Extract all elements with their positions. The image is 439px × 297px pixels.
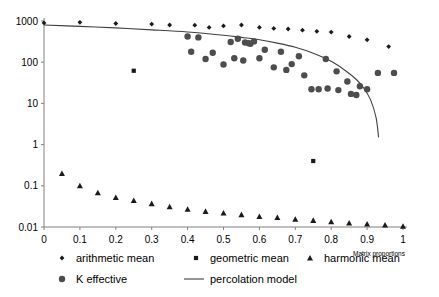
y-tick-label: 0.01 — [19, 222, 39, 233]
marker-diamond — [192, 23, 197, 28]
x-tick-label: 0.6 — [252, 234, 266, 245]
marker-circle — [235, 36, 241, 42]
data-point — [314, 29, 319, 34]
data-point — [195, 34, 201, 40]
data-point — [324, 85, 330, 91]
x-tick-label: 0.7 — [288, 234, 302, 245]
data-point — [220, 61, 226, 67]
legend-marker-swatch — [59, 276, 65, 282]
data-point — [207, 25, 212, 30]
data-point — [149, 201, 155, 207]
marker-circle — [391, 70, 397, 76]
marker-diamond — [257, 25, 262, 30]
marker-diamond — [167, 23, 172, 28]
data-point — [239, 23, 244, 28]
y-tick-label: 100 — [21, 57, 38, 68]
marker-triangle — [167, 204, 173, 210]
data-point — [257, 25, 262, 30]
marker-circle — [210, 50, 216, 56]
marker-diamond — [78, 20, 83, 25]
marker-triangle — [310, 217, 316, 223]
marker-diamond — [286, 27, 291, 32]
marker-triangle — [113, 195, 119, 201]
marker-triangle — [256, 213, 262, 219]
data-point — [300, 28, 305, 33]
data-point — [391, 70, 397, 76]
data-point — [202, 56, 208, 62]
legend-label-text: geometric mean — [210, 252, 289, 264]
marker-triangle — [59, 170, 65, 176]
legend-label-text: harmonic mean — [324, 252, 400, 264]
marker-circle — [256, 55, 262, 61]
x-tick-label: 0.1 — [73, 234, 87, 245]
legend-marker-swatch — [307, 255, 313, 261]
marker-triangle — [95, 190, 101, 196]
series-harmonic-mean — [59, 170, 406, 228]
y-axis-ticks: 10001001010.10.01 — [16, 16, 44, 233]
data-point — [256, 55, 262, 61]
marker-diamond — [60, 256, 65, 261]
marker-triangle — [238, 212, 244, 218]
marker-diamond — [329, 30, 334, 35]
data-point — [364, 221, 370, 227]
x-tick-label: 0.2 — [109, 234, 123, 245]
legend-label-text: K effective — [76, 273, 127, 285]
data-point — [184, 33, 190, 39]
marker-square — [132, 69, 136, 73]
data-point — [278, 48, 284, 54]
marker-circle — [364, 86, 370, 92]
marker-diamond — [221, 24, 226, 29]
series-k-effective — [184, 33, 397, 98]
x-tick-label: 0.8 — [324, 234, 338, 245]
data-point — [274, 215, 280, 221]
marker-triangle — [77, 183, 83, 189]
data-point — [333, 68, 339, 74]
marker-circle — [375, 70, 381, 76]
data-point — [292, 216, 298, 222]
data-point — [95, 190, 101, 196]
data-point — [78, 20, 83, 25]
x-tick-label: 1 — [400, 234, 406, 245]
data-point — [335, 87, 341, 93]
marker-circle — [202, 56, 208, 62]
data-point — [149, 22, 154, 27]
data-point — [310, 217, 316, 223]
data-point — [113, 21, 118, 26]
marker-triangle — [346, 220, 352, 226]
legend-item-percolation-model[interactable]: percolation model — [184, 273, 297, 285]
data-point — [167, 23, 172, 28]
marker-triangle — [292, 216, 298, 222]
data-point — [289, 61, 295, 67]
marker-diamond — [207, 25, 212, 30]
marker-circle — [323, 56, 329, 62]
data-point — [315, 86, 321, 92]
data-point — [329, 30, 334, 35]
marker-circle — [195, 34, 201, 40]
data-point — [59, 170, 65, 176]
legend-item-k-effective[interactable]: K effective — [59, 273, 127, 285]
data-point — [221, 210, 227, 216]
data-point — [256, 213, 262, 219]
marker-triangle — [382, 222, 388, 228]
legend-item-harmonic-mean[interactable]: harmonic mean — [307, 252, 400, 264]
data-point — [271, 26, 276, 31]
data-point — [77, 183, 83, 189]
data-point — [271, 64, 277, 70]
marker-circle — [333, 68, 339, 74]
chart-axes — [44, 18, 407, 227]
legend-item-geometric-mean[interactable]: geometric mean — [194, 252, 289, 264]
x-tick-label: 0.5 — [217, 234, 231, 245]
marker-circle — [220, 61, 226, 67]
x-axis-ticks: 00.10.20.30.40.50.60.70.80.91 — [41, 227, 406, 245]
data-point — [227, 39, 233, 45]
marker-circle — [315, 86, 321, 92]
marker-circle — [289, 61, 295, 67]
data-point — [296, 53, 302, 59]
marker-diamond — [314, 29, 319, 34]
series-geometric-mean — [132, 69, 316, 163]
marker-circle — [262, 47, 268, 53]
marker-diamond — [239, 23, 244, 28]
percolation-model-curve — [44, 25, 379, 137]
legend-item-arithmetic-mean[interactable]: arithmetic mean — [60, 252, 155, 264]
marker-diamond — [365, 37, 370, 42]
